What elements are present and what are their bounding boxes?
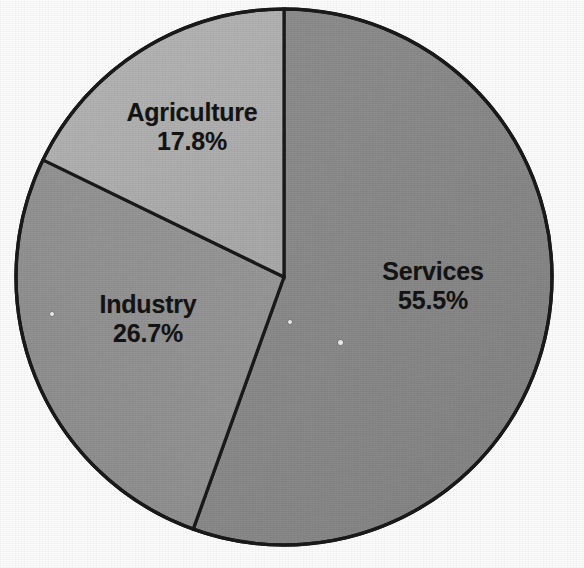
scan-speckle [50, 312, 54, 316]
pie-label-agriculture-name: Agriculture [104, 98, 280, 127]
pie-label-industry-name: Industry [72, 290, 224, 319]
pie-label-services: Services 55.5% [352, 257, 514, 315]
scan-speckle [338, 340, 343, 345]
pie-label-industry-value: 26.7% [72, 319, 224, 348]
pie-label-services-value: 55.5% [352, 286, 514, 315]
pie-label-agriculture: Agriculture 17.8% [104, 98, 280, 156]
pie-chart-figure: Agriculture 17.8% Services 55.5% Industr… [0, 0, 584, 568]
pie-label-services-name: Services [352, 257, 514, 286]
pie-label-industry: Industry 26.7% [72, 290, 224, 348]
scan-speckle [288, 320, 292, 324]
pie-label-agriculture-value: 17.8% [104, 127, 280, 156]
